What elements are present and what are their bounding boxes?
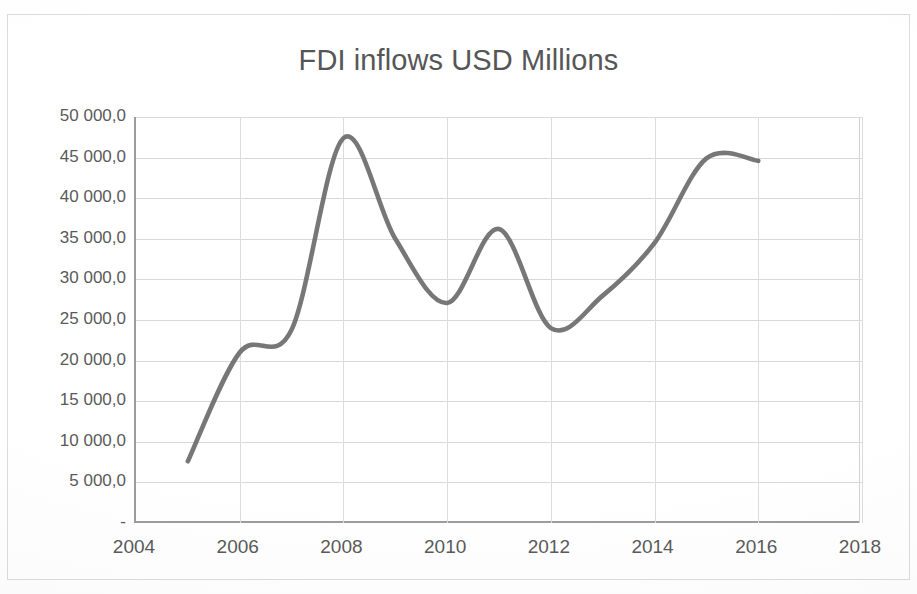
y-tick-label: 50 000,0 [14,106,126,126]
x-tick-label: 2008 [296,536,386,558]
chart-title: FDI inflows USD Millions [0,44,917,77]
plot-area [134,117,860,523]
y-tick-label: 45 000,0 [14,147,126,167]
y-tick-label: 15 000,0 [14,390,126,410]
y-tick-label: - [14,512,126,532]
y-tick-label: 5 000,0 [14,471,126,491]
x-tick-label: 2010 [400,536,490,558]
y-tick-label: 20 000,0 [14,350,126,370]
x-axis-tick-labels: 20042006200820102012201420162018 [134,536,860,566]
fdi-line-chart: FDI inflows USD Millions 50 000,045 000,… [0,0,917,594]
y-tick-label: 30 000,0 [14,268,126,288]
y-tick-label: 40 000,0 [14,187,126,207]
x-tick-label: 2014 [608,536,698,558]
series-line-fdi-inflows [188,136,758,461]
x-tick-label: 2018 [815,536,905,558]
y-tick-label: 25 000,0 [14,309,126,329]
gridline-vertical [862,117,863,523]
chart-page: FDI inflows USD Millions 50 000,045 000,… [0,0,917,594]
y-tick-label: 10 000,0 [14,431,126,451]
y-tick-label: 35 000,0 [14,228,126,248]
x-tick-label: 2004 [89,536,179,558]
x-tick-label: 2012 [504,536,594,558]
series-plot [136,117,862,523]
x-tick-label: 2016 [711,536,801,558]
x-tick-label: 2006 [193,536,283,558]
y-axis-tick-labels: 50 000,045 000,040 000,035 000,030 000,0… [8,117,126,523]
